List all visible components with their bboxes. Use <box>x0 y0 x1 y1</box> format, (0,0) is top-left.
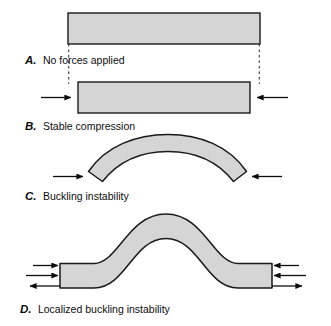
figure-canvas: A. No forces applied B. Stable compressi… <box>0 0 331 326</box>
caption-a: A. No forces applied <box>24 54 125 66</box>
buckling-instability-figure: A. No forces applied B. Stable compressi… <box>0 0 331 326</box>
caption-c-label: Buckling instability <box>43 190 130 202</box>
caption-a-label: No forces applied <box>43 54 125 66</box>
caption-b-label: Stable compression <box>43 120 135 132</box>
caption-a-letter: A. <box>24 54 37 66</box>
caption-c-letter: C. <box>25 190 37 202</box>
caption-d-letter: D. <box>20 303 32 315</box>
caption-d-label: Localized buckling instability <box>38 303 171 315</box>
beam-b-compressed <box>78 82 250 113</box>
figure-background <box>0 0 331 326</box>
caption-d: D. Localized buckling instability <box>20 303 171 315</box>
beam-a-straight <box>68 13 260 44</box>
caption-b-letter: B. <box>25 120 37 132</box>
